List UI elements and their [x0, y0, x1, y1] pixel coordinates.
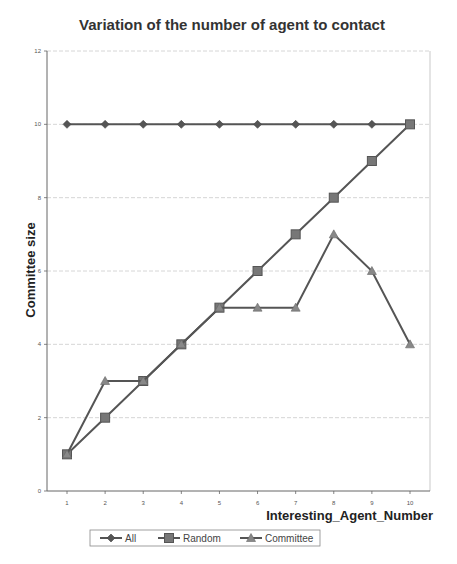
x-tick-label: 6 [256, 500, 260, 506]
x-tick-label: 5 [218, 500, 222, 506]
x-tick-label: 2 [103, 500, 107, 506]
data-point-all [139, 120, 147, 128]
data-point-committee [406, 340, 415, 348]
x-tick-label: 1 [65, 500, 69, 506]
series-all [63, 120, 414, 128]
y-tick-label: 10 [34, 121, 41, 127]
x-tick-label: 4 [180, 500, 184, 506]
data-point-all [368, 120, 376, 128]
x-tick-label: 8 [332, 500, 336, 506]
data-point-all [177, 120, 185, 128]
y-tick-label: 8 [38, 195, 42, 201]
data-point-committee [329, 230, 338, 238]
legend-label-committee: Committee [265, 533, 314, 544]
x-tick-label: 3 [142, 500, 146, 506]
data-point-all [101, 120, 109, 128]
legend: AllRandomCommittee [90, 530, 320, 546]
series-line-random [67, 124, 410, 454]
data-point-all [292, 120, 300, 128]
y-tick-label: 0 [38, 488, 42, 494]
y-axis-title: Committee size [23, 222, 38, 317]
x-tick-labels: 12345678910 [65, 500, 414, 506]
x-tick-label: 7 [294, 500, 298, 506]
data-point-random [291, 230, 300, 239]
y-tick-label: 6 [38, 268, 42, 274]
chart: Variation of the number of agent to cont… [0, 0, 457, 564]
data-point-random [253, 267, 262, 276]
y-tick-label: 12 [34, 48, 41, 54]
gridlines [47, 51, 430, 418]
data-point-random [406, 120, 415, 129]
y-tick-label: 4 [38, 341, 42, 347]
data-point-all [330, 120, 338, 128]
x-axis-title: Interesting_Agent_Number [266, 508, 433, 523]
y-tick-label: 2 [38, 415, 42, 421]
series-line-committee [67, 234, 410, 454]
data-point-all [63, 120, 71, 128]
legend-label-random: Random [183, 533, 221, 544]
series-random [63, 120, 415, 459]
series-group [63, 120, 415, 459]
data-point-random [329, 193, 338, 202]
data-point-random [101, 413, 110, 422]
x-tick-label: 10 [407, 500, 414, 506]
series-committee [63, 230, 415, 458]
data-point-all [254, 120, 262, 128]
legend-label-all: All [125, 533, 136, 544]
data-point-all [215, 120, 223, 128]
chart-title: Variation of the number of agent to cont… [79, 16, 385, 33]
legend-marker-random [165, 534, 174, 543]
data-point-random [367, 157, 376, 166]
x-tick-label: 9 [370, 500, 374, 506]
